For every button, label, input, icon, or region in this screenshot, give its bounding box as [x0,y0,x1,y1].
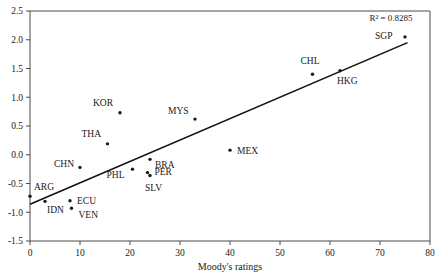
data-point-kor [118,111,121,114]
x-tick-label-3: 30 [175,248,185,258]
y-tick-label-3: 0.0 [11,150,23,160]
x-tick-label-7: 70 [375,248,385,258]
data-point-phl [131,167,134,170]
y-tick-label-8: 2.5 [11,6,23,16]
data-label-per: PER [155,167,173,177]
data-point-ecu [68,199,71,202]
y-tick-label-4: 0.5 [11,121,23,131]
data-label-ecu: ECU [77,196,96,206]
x-tick-label-2: 20 [125,248,135,258]
x-tick-label-0: 0 [28,248,33,258]
regression-trendline [30,43,408,205]
data-point-tha [106,142,109,145]
data-point-bra [148,158,151,161]
y-axis-ticks: -1.5-1.0-0.50.00.51.01.52.02.5 [8,6,30,246]
data-label-ven: VEN [79,210,99,220]
data-point-hkg [338,69,341,72]
data-label-hkg: HKG [337,76,358,86]
data-point-chl [311,73,314,76]
plot-border [30,11,430,241]
y-tick-label-1: -1.0 [8,208,23,218]
data-label-tha: THA [82,129,102,139]
y-tick-label-6: 1.5 [11,64,23,74]
y-tick-label-5: 1.0 [11,93,23,103]
x-tick-label-4: 40 [225,248,235,258]
x-axis-ticks: 01020304050607080 [28,241,435,258]
data-label-mex: MEX [237,146,258,156]
data-point-chn [78,166,81,169]
r-squared: R² = 0.8285 [369,13,413,23]
data-label-kor: KOR [93,98,114,108]
x-tick-label-5: 50 [275,248,285,258]
data-point-per [146,171,149,174]
plot-frame [30,11,430,241]
data-point-sgp [403,35,406,38]
data-points-group [28,35,406,210]
x-tick-label-8: 80 [425,248,435,258]
x-tick-label-1: 10 [75,248,85,258]
data-point-mex [228,148,231,151]
data-point-slv [148,174,151,177]
trendline-group [30,43,408,205]
y-tick-label-0: -1.5 [8,236,23,246]
data-point-idn [43,200,46,203]
data-label-chl: CHL [301,56,320,66]
data-label-phl: PHL [107,170,125,180]
data-label-arg: ARG [34,182,54,192]
data-label-idn: IDN [47,205,64,215]
scatter-chart-figure: -1.5-1.0-0.50.00.51.01.52.02.5 010203040… [0,0,440,276]
y-tick-label-2: -0.5 [8,179,23,189]
data-label-chn: CHN [54,159,74,169]
data-label-sgp: SGP [375,31,392,41]
y-tick-label-7: 2.0 [11,35,23,45]
chart-canvas: -1.5-1.0-0.50.00.51.01.52.02.5 010203040… [0,0,440,276]
data-point-ven [70,207,73,210]
x-tick-label-6: 60 [325,248,335,258]
data-label-slv: SLV [145,183,162,193]
data-label-mys: MYS [168,106,189,116]
data-point-mys [193,117,196,120]
data-point-arg [28,194,31,197]
annotations-group: R² = 0.8285 [369,13,413,23]
x-axis-title: Moody's ratings [198,261,262,272]
